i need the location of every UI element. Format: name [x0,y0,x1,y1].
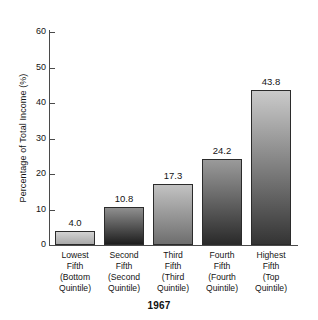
x-category-line: (Third [147,272,199,283]
x-category-line: Fourth [196,250,248,261]
chart-title: 1967 [0,300,318,311]
bar [104,207,144,245]
x-category-line: Highest [245,250,297,261]
x-category-label: LowestFifth(BottomQuintile) [49,250,101,294]
y-tick-label: 20 [16,169,46,178]
bar-chart: Percentage of Total Income (%) 605040302… [0,0,318,320]
x-category-line: Fifth [196,261,248,272]
x-category-label: SecondFifth(SecondQuintile) [98,250,150,294]
y-tick-mark [50,68,55,69]
y-tick-mark [50,103,55,104]
y-tick-label: 60 [16,27,46,36]
x-category-line: Quintile) [98,283,150,294]
y-tick-mark [50,139,55,140]
x-category-line: Lowest [49,250,101,261]
x-category-line: Quintile) [49,283,101,294]
x-category-label: HighestFifth(TopQuintile) [245,250,297,294]
bar [251,90,291,245]
x-category-line: Quintile) [245,283,297,294]
y-tick-mark [50,245,55,246]
y-tick-label: 10 [16,205,46,214]
bar [153,184,193,245]
y-tick-label: 50 [16,63,46,72]
bar [55,231,95,245]
x-category-line: Quintile) [196,283,248,294]
bar-value-label: 24.2 [195,146,249,156]
x-category-label: ThirdFifth(ThirdQuintile) [147,250,199,294]
x-category-line: Second [98,250,150,261]
bar-value-label: 10.8 [97,194,151,204]
x-axis-line [49,245,298,246]
x-category-line: (Bottom [49,272,101,283]
bar [202,159,242,245]
x-category-line: Fifth [147,261,199,272]
y-tick-label: 40 [16,98,46,107]
bar-value-label: 17.3 [146,171,200,181]
x-category-line: Third [147,250,199,261]
x-category-line: Fifth [49,261,101,272]
y-tick-label: 30 [16,134,46,143]
x-category-line: (Top [245,272,297,283]
y-tick-mark [50,32,55,33]
x-category-line: Fifth [245,261,297,272]
bar-value-label: 4.0 [48,218,102,228]
x-category-label: FourthFifth(FourthQuintile) [196,250,248,294]
x-category-line: Quintile) [147,283,199,294]
x-category-line: (Fourth [196,272,248,283]
bar-value-label: 43.8 [244,77,298,87]
x-category-line: Fifth [98,261,150,272]
y-tick-mark [50,210,55,211]
y-tick-mark [50,174,55,175]
x-category-line: (Second [98,272,150,283]
y-tick-label: 0 [16,240,46,249]
